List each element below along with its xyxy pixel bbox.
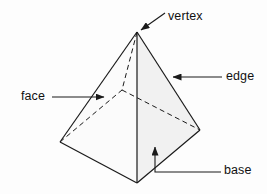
label-base: base [224,164,252,177]
pyramid-face-left [60,32,137,183]
label-face: face [21,90,45,103]
pyramid-solid [60,32,200,183]
pyramid-diagram: vertex edge face base [0,0,267,194]
label-vertex: vertex [168,10,203,23]
pyramid-face-right [137,32,200,183]
vertex-leader-line [141,13,165,30]
label-edge: edge [226,70,254,83]
